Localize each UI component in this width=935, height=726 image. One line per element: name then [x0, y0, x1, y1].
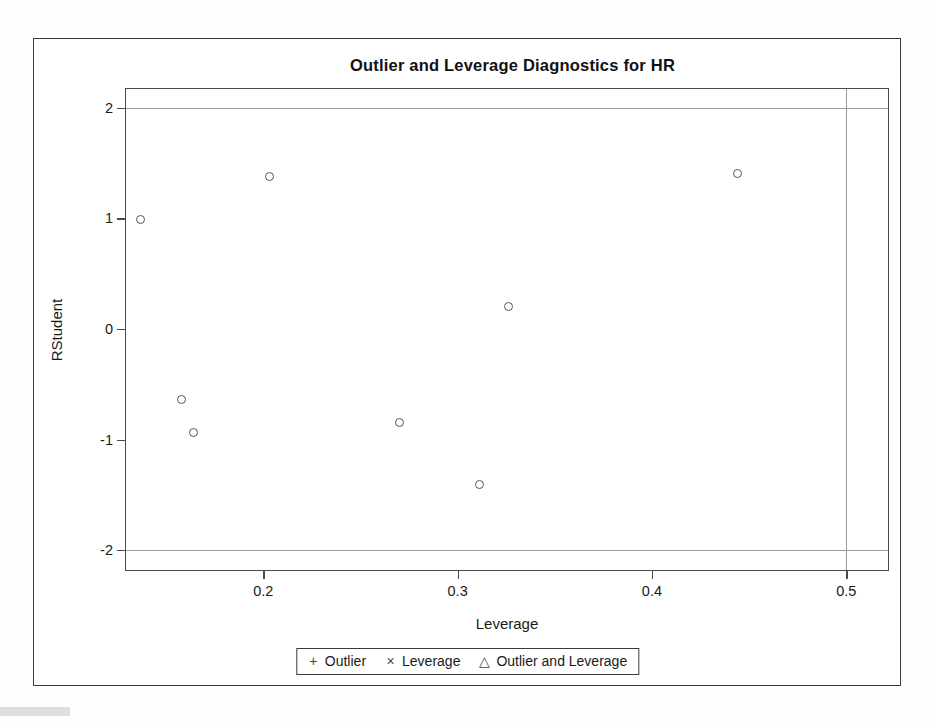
y-axis-tick-label: -2 [100, 542, 113, 558]
y-axis-tick-label: 1 [105, 210, 113, 226]
y-axis-tick [117, 440, 126, 441]
leverage-cutoff [846, 89, 847, 570]
rstudent-lower-cutoff [126, 550, 888, 551]
legend: +Outlier×Leverage△Outlier and Leverage [296, 648, 639, 675]
y-axis-tick [117, 108, 126, 109]
plot-canvas [126, 89, 888, 570]
x-axis-tick-label: 0.4 [642, 583, 662, 599]
cross-marker-icon: × [385, 654, 396, 668]
y-axis-tick [117, 218, 126, 219]
legend-item-label: Leverage [402, 653, 460, 669]
y-axis-tick-label: 0 [105, 321, 113, 337]
x-axis-tick-label: 0.2 [253, 583, 273, 599]
data-point [136, 215, 145, 224]
legend-item: △Outlier and Leverage [479, 653, 627, 669]
scan-artifact [0, 707, 70, 716]
x-axis-title: Leverage [125, 615, 889, 632]
y-axis-tick [117, 329, 126, 330]
x-axis-tick-label: 0.5 [836, 583, 856, 599]
data-point [733, 169, 742, 178]
data-point [189, 428, 198, 437]
legend-item: +Outlier [308, 653, 366, 669]
x-axis-tick [458, 570, 459, 579]
x-axis-tick [263, 570, 264, 579]
x-axis-tick [652, 570, 653, 579]
x-axis-tick [846, 570, 847, 579]
plot-area: 210-1-20.20.30.40.5 [125, 88, 889, 571]
legend-item: ×Leverage [385, 653, 460, 669]
data-point [504, 302, 513, 311]
data-point [177, 395, 186, 404]
data-point [265, 172, 274, 181]
legend-item-label: Outlier [325, 653, 366, 669]
y-axis-tick-label: 2 [105, 100, 113, 116]
page-title: Outlier and Leverage Diagnostics for HR [125, 56, 900, 75]
plus-marker-icon: + [308, 654, 319, 668]
x-axis-tick-label: 0.3 [448, 583, 468, 599]
y-axis-tick-label: -1 [100, 432, 113, 448]
rstudent-upper-cutoff [126, 108, 888, 109]
legend-item-label: Outlier and Leverage [496, 653, 627, 669]
triangle-marker-icon: △ [479, 654, 490, 668]
y-axis-title: RStudent [48, 299, 65, 362]
y-axis-tick [117, 550, 126, 551]
data-point [395, 418, 404, 427]
data-point [475, 480, 484, 489]
